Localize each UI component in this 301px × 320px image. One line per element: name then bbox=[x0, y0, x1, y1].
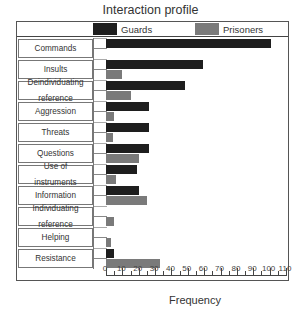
bar-guards bbox=[106, 60, 203, 69]
chart-frame: Guards Prisoners CommandsInsultsDeindivi… bbox=[16, 21, 289, 281]
bar-row: Insults bbox=[17, 59, 288, 80]
bar-prisoners bbox=[106, 112, 114, 121]
legend-label-prisoners: Prisoners bbox=[223, 24, 263, 35]
legend: Guards Prisoners bbox=[17, 22, 288, 37]
bar-prisoners bbox=[106, 238, 111, 247]
bar-row: Commands bbox=[17, 38, 288, 59]
minor-tick bbox=[229, 271, 230, 275]
row-tick-cell bbox=[93, 80, 106, 101]
legend-item-guards: Guards bbox=[93, 23, 152, 35]
bar-row: Helping bbox=[17, 227, 288, 248]
x-tick-label: 70 bbox=[215, 264, 224, 273]
minor-tick bbox=[196, 271, 197, 275]
category-label: Threats bbox=[18, 123, 93, 142]
x-axis-line bbox=[106, 275, 287, 276]
category-label-line: Resistance bbox=[35, 255, 76, 263]
bar-row: Threats bbox=[17, 122, 288, 143]
minor-tick bbox=[147, 271, 148, 275]
bar-prisoners bbox=[106, 70, 122, 79]
row-tick-cell bbox=[93, 206, 106, 227]
category-label: Commands bbox=[18, 39, 93, 58]
row-tick-cell bbox=[93, 101, 106, 122]
row-tick-cell bbox=[93, 59, 106, 80]
bar-guards bbox=[106, 102, 149, 111]
row-tick-cell bbox=[93, 143, 106, 164]
category-label-line: Individuating bbox=[33, 205, 79, 213]
category-label: Resistance bbox=[18, 249, 93, 268]
legend-item-prisoners: Prisoners bbox=[195, 23, 263, 35]
category-label: Aggression bbox=[18, 102, 93, 121]
bar-prisoners bbox=[106, 154, 139, 163]
x-tick-label: 90 bbox=[248, 264, 257, 273]
bar-row: Use ofinstruments bbox=[17, 164, 288, 185]
prisoners-swatch bbox=[195, 23, 219, 35]
bar-guards bbox=[106, 39, 271, 48]
bar-guards bbox=[106, 144, 149, 153]
bar-guards bbox=[106, 81, 185, 90]
legend-label-guards: Guards bbox=[121, 24, 152, 35]
row-tick-cell bbox=[93, 164, 106, 185]
bar-guards bbox=[106, 165, 137, 174]
chart-title: Interaction profile bbox=[0, 3, 301, 17]
minor-tick bbox=[180, 271, 181, 275]
x-tick-label: 40 bbox=[166, 264, 175, 273]
x-tick-label: 0 bbox=[103, 264, 107, 273]
x-axis-label: Frequency bbox=[105, 294, 285, 306]
bar-prisoners bbox=[106, 217, 114, 226]
category-label: Information bbox=[18, 186, 93, 205]
category-label: Individuatingreference bbox=[18, 207, 93, 226]
guards-swatch bbox=[93, 23, 117, 35]
category-label-line: Helping bbox=[42, 234, 70, 242]
x-tick-label: 80 bbox=[231, 264, 240, 273]
x-tick-label: 100 bbox=[262, 264, 275, 273]
x-tick-label: 30 bbox=[150, 264, 159, 273]
bar-prisoners bbox=[106, 175, 116, 184]
x-tick-label: 60 bbox=[199, 264, 208, 273]
bar-guards bbox=[106, 249, 114, 258]
bar-row: Information bbox=[17, 185, 288, 206]
bar-prisoners bbox=[106, 133, 113, 142]
category-label: Helping bbox=[18, 228, 93, 247]
category-label: Deindividuatingreference bbox=[18, 81, 93, 100]
category-label-line: Questions bbox=[37, 150, 74, 158]
category-label-line: Commands bbox=[35, 45, 77, 53]
bar-row: Deindividuatingreference bbox=[17, 80, 288, 101]
bar-guards bbox=[106, 123, 149, 132]
x-tick-label: 20 bbox=[133, 264, 142, 273]
row-tick-cell bbox=[93, 38, 106, 59]
category-label: Questions bbox=[18, 144, 93, 163]
category-label-line: Threats bbox=[42, 129, 70, 137]
minor-tick bbox=[163, 271, 164, 275]
x-tick-label: 110 bbox=[279, 264, 292, 273]
x-tick-label: 50 bbox=[182, 264, 191, 273]
minor-tick bbox=[212, 271, 213, 275]
x-tick-label: 10 bbox=[117, 264, 126, 273]
category-label: Insults bbox=[18, 60, 93, 79]
row-tick-cell bbox=[93, 185, 106, 206]
minor-tick bbox=[114, 271, 115, 275]
category-label: Use ofinstruments bbox=[18, 165, 93, 184]
bar-prisoners bbox=[106, 196, 147, 205]
bar-row: Individuatingreference bbox=[17, 206, 288, 227]
row-tick-cell bbox=[93, 227, 106, 248]
category-label-line: Information bbox=[35, 192, 76, 200]
minor-tick bbox=[131, 271, 132, 275]
bar-row: Aggression bbox=[17, 101, 288, 122]
bar-guards bbox=[106, 186, 139, 195]
category-label-line: Aggression bbox=[35, 108, 76, 116]
bar-row: Questions bbox=[17, 143, 288, 164]
row-tick-cell bbox=[93, 122, 106, 143]
minor-tick bbox=[245, 271, 246, 275]
category-label-line: Deindividuating bbox=[28, 79, 84, 87]
category-label-line: Use of bbox=[44, 163, 68, 171]
category-label-line: Insults bbox=[44, 66, 68, 74]
bar-prisoners bbox=[106, 91, 131, 100]
